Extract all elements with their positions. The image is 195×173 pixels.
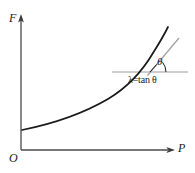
angle-arc bbox=[163, 62, 167, 72]
angle-vertex-marker bbox=[150, 65, 157, 73]
figure-container: F P O θ λ=tan θ bbox=[0, 0, 195, 173]
y-axis-label: F bbox=[9, 12, 16, 24]
angle-theta-label: θ bbox=[157, 56, 162, 67]
slope-definition-label: λ=tan θ bbox=[128, 75, 157, 85]
figure-canvas bbox=[0, 0, 195, 173]
x-axis bbox=[21, 147, 175, 153]
x-axis-label: P bbox=[178, 142, 185, 154]
origin-label: O bbox=[9, 152, 18, 164]
